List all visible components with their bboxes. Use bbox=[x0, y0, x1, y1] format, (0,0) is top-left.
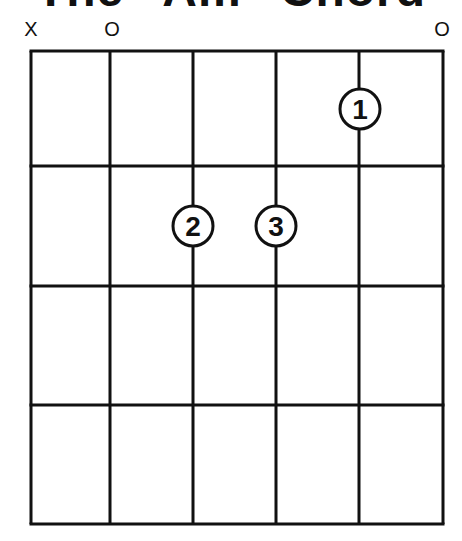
finger-position-1: 1 bbox=[340, 89, 380, 129]
finger-position-2: 2 bbox=[173, 206, 213, 246]
finger-number: 1 bbox=[352, 94, 368, 125]
finger-number: 3 bbox=[268, 211, 284, 242]
chord-fretboard-grid: 123 bbox=[0, 0, 462, 541]
finger-position-3: 3 bbox=[256, 206, 296, 246]
finger-number: 2 bbox=[185, 211, 201, 242]
